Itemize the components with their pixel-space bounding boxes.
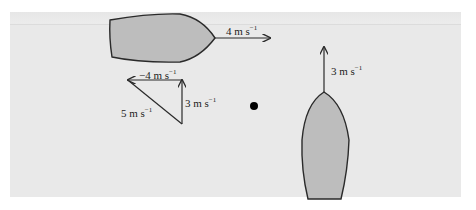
triangle-resultant-label: 5 m s−1	[121, 104, 152, 119]
boat-a-velocity-label: 4 m s−1	[226, 22, 257, 37]
label-exponent: −1	[169, 68, 176, 76]
diagram-canvas: 4 m s−1 −4 m s−1 3 m s−1 5 m s−1 3 m s−1	[0, 0, 476, 210]
label-exponent: −1	[355, 64, 362, 72]
boat-b-hull	[302, 92, 349, 199]
label-text: −4 m s	[139, 69, 169, 81]
boat-b-velocity-label: 3 m s−1	[331, 62, 362, 77]
label-text: 5 m s	[121, 107, 145, 119]
label-exponent: −1	[250, 24, 257, 32]
triangle-vertical-label: 3 m s−1	[185, 94, 216, 109]
label-text: 3 m s	[331, 65, 355, 77]
label-text: 4 m s	[226, 25, 250, 37]
observer-dot	[250, 102, 258, 110]
label-exponent: −1	[209, 96, 216, 104]
triangle-horizontal-label: −4 m s−1	[139, 66, 177, 81]
boat-a-hull	[110, 14, 215, 62]
label-exponent: −1	[145, 106, 152, 114]
label-text: 3 m s	[185, 97, 209, 109]
